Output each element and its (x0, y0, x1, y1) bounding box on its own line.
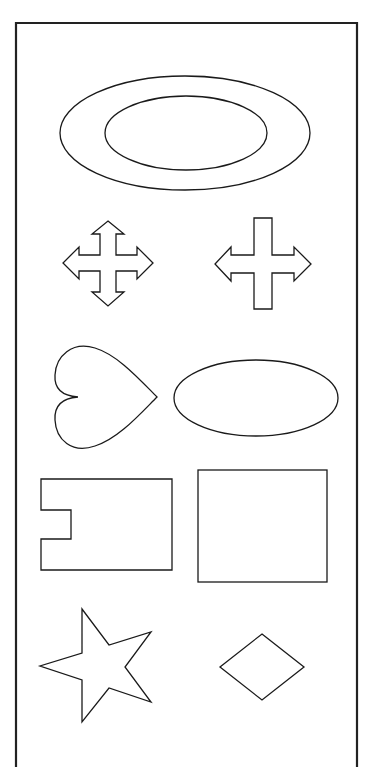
diamond (220, 634, 304, 700)
shapes-canvas (0, 0, 368, 767)
notched-rectangle (41, 479, 172, 570)
ring-inner-ellipse (105, 96, 267, 170)
left-right-arrow-cross (215, 218, 311, 309)
heart (55, 346, 157, 448)
four-way-arrow (63, 221, 153, 306)
star (40, 609, 151, 722)
ring-shape (60, 76, 310, 190)
ellipse (174, 360, 338, 436)
ring-outer-ellipse (60, 76, 310, 190)
square (198, 470, 327, 582)
